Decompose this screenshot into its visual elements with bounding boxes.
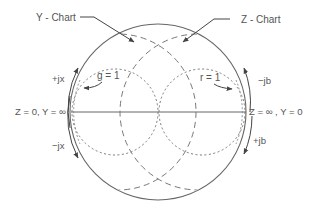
left-point-label: Z = 0, Y = ∞: [15, 106, 66, 117]
r-equals-1-label: r = 1: [200, 72, 221, 83]
plus-jb-label: +jb: [253, 135, 266, 146]
r-equals-1-pointer: [214, 84, 232, 89]
smith-chart-diagram: Y - Chart Z - Chart g = 1 r = 1 +jx −jx …: [0, 0, 317, 212]
minus-jb-label: −jb: [258, 75, 271, 86]
g-equals-1-pointer: [84, 82, 102, 88]
minus-jx-label: −jx: [52, 140, 65, 151]
g-equals-1-label: g = 1: [97, 70, 120, 81]
y-chart-label: Y - Chart: [36, 12, 76, 23]
right-point-label: Z = ∞ , Y = 0: [249, 106, 302, 117]
plus-jx-label: +jx: [52, 73, 65, 84]
z-chart-label: Z - Chart: [241, 14, 281, 25]
